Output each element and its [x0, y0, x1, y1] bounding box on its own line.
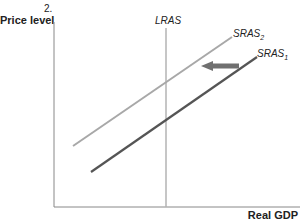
sras1-label: SRAS1 [257, 48, 288, 61]
shift-arrow-icon [201, 61, 239, 71]
sras2-label: SRAS2 [233, 28, 264, 41]
lras-label: LRAS [155, 15, 181, 26]
sras1-line [91, 57, 257, 172]
